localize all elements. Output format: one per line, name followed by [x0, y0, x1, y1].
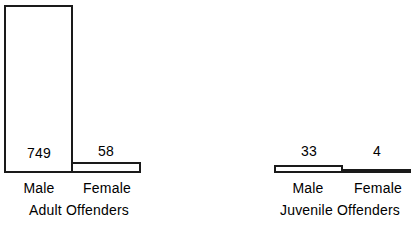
group-title-juvenile-offenders: Juvenile Offenders	[265, 202, 415, 218]
category-label-adult-female: Female	[70, 180, 144, 196]
category-label-juvenile-male: Male	[273, 180, 343, 196]
value-label-adult-female: 58	[82, 144, 130, 158]
bar-juvenile-male	[274, 165, 343, 173]
bar-juvenile-female	[342, 169, 411, 173]
bar-chart: 749 58 Male Female Adult Offenders 33 4 …	[0, 0, 415, 238]
chart-group-adult-offenders: 749 58 Male Female Adult Offenders	[0, 0, 207, 238]
group-title-adult-offenders: Adult Offenders	[4, 202, 154, 218]
value-label-juvenile-male: 33	[281, 144, 337, 158]
bar-adult-female	[71, 162, 141, 173]
value-label-juvenile-female: 4	[351, 144, 403, 158]
chart-group-juvenile-offenders: 33 4 Male Female Juvenile Offenders	[207, 0, 415, 238]
category-label-juvenile-female: Female	[341, 180, 415, 196]
category-label-adult-male: Male	[8, 180, 70, 196]
value-label-adult-male: 749	[12, 146, 66, 160]
